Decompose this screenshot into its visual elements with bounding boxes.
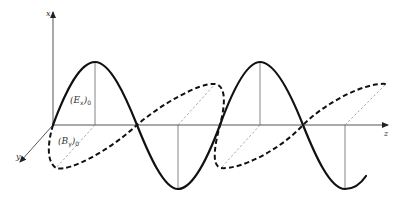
x-axis-label: x	[46, 9, 51, 18]
svg-text:(Ex)0: (Ex)0	[70, 95, 91, 106]
svg-text:(By)0: (By)0	[58, 136, 79, 148]
em-wave-diagram: x z y (Ex)0 (By)0	[0, 0, 403, 203]
b-field-wave	[49, 84, 386, 169]
z-axis-label: z	[383, 129, 389, 138]
y-axis	[20, 125, 53, 162]
b-amplitude-label: (By)0	[58, 136, 79, 148]
b-amplitude-line-4	[345, 84, 386, 125]
e-amplitude-label: (Ex)0	[70, 95, 91, 106]
b-amplitude-line-3	[221, 125, 260, 168]
b-amplitude-line-2	[178, 84, 215, 125]
y-axis-label: y	[15, 152, 21, 161]
